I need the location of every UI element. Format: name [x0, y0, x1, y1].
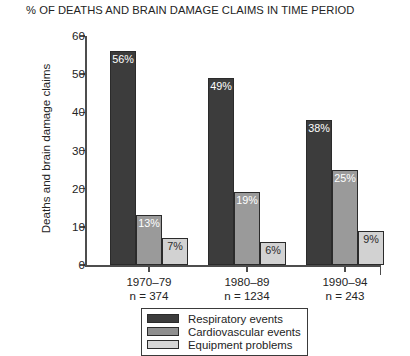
bar: 49% [208, 78, 234, 265]
bar: 7% [162, 238, 188, 265]
bar-value-label: 13% [137, 218, 161, 229]
bar: 38% [306, 120, 332, 265]
bar-value-label: 7% [163, 241, 187, 252]
bar: 19% [234, 192, 260, 265]
legend-item-label: Cardiovascular events [188, 326, 301, 338]
legend-item-label: Equipment problems [188, 339, 292, 351]
bar-value-label: 9% [359, 234, 383, 245]
plot-area: 6050403020100 56%13%7%49%19%6%38%25%9% 1… [0, 0, 410, 300]
y-axis-tick-label: 30 [57, 145, 85, 157]
bar: 13% [136, 215, 162, 265]
y-axis-tick-label: 60 [57, 30, 85, 42]
bar-value-label: 56% [111, 54, 135, 65]
legend-item: Equipment problems [147, 338, 302, 351]
x-axis-end-tick [380, 266, 382, 275]
bar-value-label: 38% [307, 123, 331, 134]
legend-swatch-icon [147, 327, 179, 336]
y-axis-tick-label: 10 [57, 221, 85, 233]
bar: 56% [110, 51, 136, 265]
legend-item: Cardiovascular events [147, 325, 302, 338]
bar-value-label: 19% [235, 195, 259, 206]
y-axis-tick-label: 40 [57, 106, 85, 118]
y-axis-tick-label: 20 [57, 183, 85, 195]
x-axis-line [85, 265, 381, 267]
y-axis-line [85, 36, 87, 266]
category-period: 1970–79 [126, 275, 171, 288]
y-axis-tick-label: 0 [57, 259, 85, 271]
legend-item: Respiratory events [147, 312, 302, 325]
legend-swatch-icon [147, 340, 179, 349]
x-axis-tick [344, 266, 346, 272]
x-axis-tick [148, 266, 150, 272]
bar: 25% [332, 170, 358, 265]
category-period: 1990–94 [322, 275, 367, 288]
x-axis-tick [246, 266, 248, 272]
category-sample-size: n = 243 [285, 289, 405, 303]
category-period: 1980–89 [224, 275, 269, 288]
legend-swatch-icon [147, 314, 179, 323]
x-axis-category-label: 1990–94n = 243 [285, 275, 405, 304]
bar: 6% [260, 242, 286, 265]
chart-legend: Respiratory eventsCardiovascular eventsE… [141, 308, 308, 356]
legend-item-label: Respiratory events [188, 313, 283, 325]
bar-value-label: 25% [333, 173, 357, 184]
bar: 9% [358, 231, 384, 265]
y-axis-tick-label: 50 [57, 68, 85, 80]
bar-value-label: 6% [261, 245, 285, 256]
bar-value-label: 49% [209, 81, 233, 92]
